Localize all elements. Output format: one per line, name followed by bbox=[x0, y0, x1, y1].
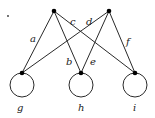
loop-h bbox=[69, 73, 93, 97]
label-g: g bbox=[17, 102, 23, 113]
vertex-top-left bbox=[52, 9, 57, 14]
label-a: a bbox=[30, 33, 36, 44]
vertex-h bbox=[79, 71, 84, 76]
label-e: e bbox=[90, 56, 96, 67]
loop-i bbox=[123, 73, 147, 97]
label-i: i bbox=[133, 102, 136, 113]
graph-diagram: a b c d e f g h i bbox=[0, 0, 155, 118]
edge-f bbox=[109, 11, 135, 73]
label-b: b bbox=[66, 56, 72, 67]
label-f: f bbox=[125, 36, 132, 47]
label-d: d bbox=[86, 16, 92, 27]
loop-g bbox=[10, 73, 34, 97]
vertex-g bbox=[20, 71, 25, 76]
vertex-top-right bbox=[107, 9, 112, 14]
label-c: c bbox=[70, 16, 76, 27]
stray-dot bbox=[7, 15, 9, 17]
label-h: h bbox=[78, 102, 84, 113]
edge-a bbox=[22, 11, 54, 73]
vertex-i bbox=[133, 71, 138, 76]
